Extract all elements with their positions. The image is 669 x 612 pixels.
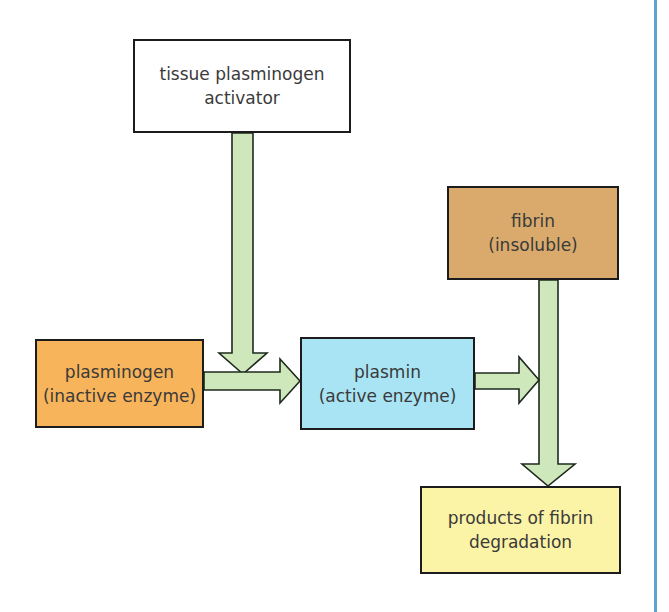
node-label-line2: activator [204,86,280,110]
node-label-line2: (insoluble) [488,233,578,257]
diagram-canvas: tissue plasminogen activator plasminogen… [0,0,669,612]
node-label-line1: fibrin [511,209,555,233]
arrow-plasmin-to-fibrin-icon [475,357,539,403]
node-label-line1: tissue plasminogen [159,62,324,86]
node-plasminogen: plasminogen (inactive enzyme) [35,339,204,428]
node-label-line2: (inactive enzyme) [43,384,196,408]
arrow-tpa-down-icon [219,133,267,374]
node-tissue-plasminogen-activator: tissue plasminogen activator [133,39,351,133]
node-label-line1: products of fibrin [448,506,593,530]
node-label-line1: plasmin [354,360,421,384]
node-fibrin: fibrin (insoluble) [447,186,619,280]
side-rule-divider [654,0,657,612]
node-fibrin-degradation-products: products of fibrin degradation [420,486,621,574]
node-label-line2: degradation [469,530,572,554]
node-label-line1: plasminogen [65,360,174,384]
node-plasmin: plasmin (active enzyme) [300,337,475,430]
node-label-line2: (active enzyme) [319,384,457,408]
